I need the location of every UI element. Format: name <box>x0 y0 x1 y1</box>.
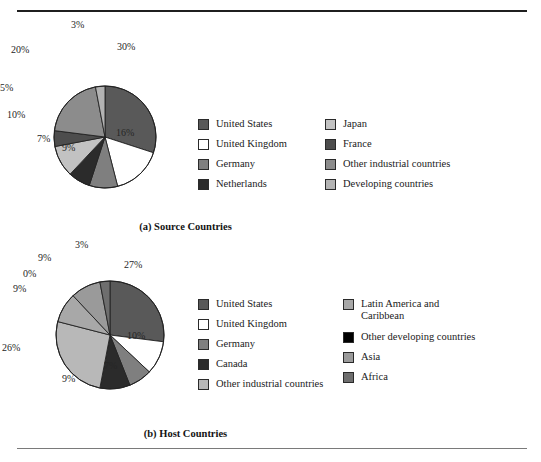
legend-item[interactable]: United States <box>198 118 287 132</box>
legend-swatch-icon <box>325 179 336 190</box>
top-divider-rule <box>17 10 527 12</box>
pie-percent-label: 3% <box>71 20 84 30</box>
legend-swatch-icon <box>343 372 354 383</box>
figure-frame: 3%30%16%9%7%10%5%20% United StatesUnited… <box>0 0 541 462</box>
panel-host-countries: 3%27%10%7%9%26%9%0%9% United StatesUnite… <box>0 240 541 445</box>
legend-item[interactable]: Japan <box>325 118 450 132</box>
legend-swatch-icon <box>325 139 336 150</box>
legend-item[interactable]: Latin America and Caribbean <box>343 298 475 322</box>
legend-column-1: United StatesUnited KingdomGermanyNether… <box>198 118 287 198</box>
legend-item-label: Other industrial countries <box>343 158 450 170</box>
pie-percent-label: 3% <box>75 240 88 250</box>
legend-item-label: Africa <box>361 371 388 383</box>
legend-column-1: United StatesUnited KingdomGermanyCanada… <box>198 298 323 398</box>
caption-source-countries: (a) Source Countries <box>0 221 456 232</box>
panel-source-countries: 3%30%16%9%7%10%5%20% United StatesUnited… <box>0 20 541 220</box>
legend-item[interactable]: Netherlands <box>198 178 287 192</box>
legend-item-label: Other industrial countries <box>216 378 323 390</box>
legend-item[interactable]: Africa <box>343 371 475 385</box>
legend-item[interactable]: Canada <box>198 358 323 372</box>
legend-item[interactable]: Other developing countries <box>343 331 475 345</box>
legend-swatch-icon <box>198 159 209 170</box>
legend-item-label: United States <box>216 118 272 130</box>
legend-swatch-icon <box>343 299 354 310</box>
pie-percent-label: 26% <box>2 343 20 353</box>
legend-item-label: Netherlands <box>216 178 267 190</box>
legend-swatch-icon <box>198 319 209 330</box>
legend-item[interactable]: Germany <box>198 338 323 352</box>
legend-item-label: Developing countries <box>343 178 433 190</box>
legend-swatch-icon <box>198 299 209 310</box>
legend-item-label: United Kingdom <box>216 138 287 150</box>
legend-swatch-icon <box>198 359 209 370</box>
caption-host-countries: (b) Host Countries <box>0 428 456 439</box>
pie-chart-source-countries <box>53 85 157 189</box>
pie-percent-label: 27% <box>124 260 142 270</box>
legend-item[interactable]: United Kingdom <box>198 318 323 332</box>
pie-percent-label: 9% <box>38 253 51 263</box>
legend-item[interactable]: Other industrial countries <box>325 158 450 172</box>
legend-swatch-icon <box>343 332 354 343</box>
pie-percent-label: 9% <box>62 143 75 153</box>
legend-item-label: United States <box>216 298 272 310</box>
legend-item[interactable]: Other industrial countries <box>198 378 323 392</box>
legend-swatch-icon <box>325 159 336 170</box>
legend-item-label: United Kingdom <box>216 318 287 330</box>
pie-percent-label: 0% <box>23 269 36 279</box>
legend-item-label: Canada <box>216 358 248 370</box>
legend-item[interactable]: Asia <box>343 351 475 365</box>
legend-item-label: Asia <box>361 351 380 363</box>
legend-swatch-icon <box>198 119 209 130</box>
legend-item-label: Other developing countries <box>361 331 475 343</box>
pie-percent-label: 7% <box>37 134 50 144</box>
pie-percent-label: 9% <box>13 284 26 294</box>
legend-item-label: Germany <box>216 338 255 350</box>
legend-swatch-icon <box>325 119 336 130</box>
pie-percent-label: 20% <box>11 45 29 55</box>
pie-percent-label: 5% <box>0 83 13 93</box>
legend-swatch-icon <box>198 139 209 150</box>
legend-item[interactable]: United Kingdom <box>198 138 287 152</box>
legend-swatch-icon <box>198 379 209 390</box>
legend-item[interactable]: France <box>325 138 450 152</box>
pie-percent-label: 10% <box>127 331 145 341</box>
pie-percent-label: 9% <box>62 374 75 384</box>
legend-item-label: France <box>343 138 372 150</box>
legend-swatch-icon <box>343 352 354 363</box>
legend-item[interactable]: Germany <box>198 158 287 172</box>
legend-item-label: Germany <box>216 158 255 170</box>
legend-column-2: JapanFranceOther industrial countriesDev… <box>325 118 450 198</box>
legend-item-label: Latin America and Caribbean <box>361 298 439 322</box>
pie-svg-source <box>53 85 157 189</box>
legend-item-label: Japan <box>343 118 367 130</box>
pie-percent-label: 10% <box>7 110 25 120</box>
pie-percent-label: 30% <box>117 42 135 52</box>
legend-swatch-icon <box>198 179 209 190</box>
bottom-divider-rule <box>17 448 527 449</box>
legend-column-2: Latin America and CaribbeanOther develop… <box>343 298 475 391</box>
legend-item[interactable]: United States <box>198 298 323 312</box>
legend-item[interactable]: Developing countries <box>325 178 450 192</box>
pie-percent-label: 7% <box>104 361 117 371</box>
legend-swatch-icon <box>198 339 209 350</box>
pie-percent-label: 16% <box>116 128 134 138</box>
